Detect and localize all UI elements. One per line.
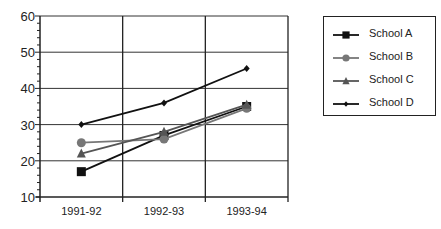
- svg-text:1991-92: 1991-92: [61, 205, 101, 217]
- series-school-b: [77, 104, 251, 147]
- legend-label: School A: [369, 27, 412, 39]
- series-school-d: [78, 65, 249, 128]
- square-marker-icon: [333, 27, 359, 39]
- series-school-c: [77, 100, 251, 158]
- legend: School A School B School C School D: [323, 16, 436, 116]
- svg-text:20: 20: [21, 154, 35, 169]
- legend-item-school-c: School C: [324, 69, 435, 89]
- svg-text:10: 10: [21, 190, 35, 205]
- y-axis-ticks: 102030405060: [21, 9, 35, 205]
- diamond-marker-icon: [333, 96, 359, 108]
- svg-text:1993-94: 1993-94: [226, 205, 266, 217]
- triangle-marker-icon: [333, 73, 359, 85]
- circle-marker-icon: [333, 50, 359, 62]
- legend-item-school-a: School A: [324, 23, 435, 43]
- legend-item-school-b: School B: [324, 46, 435, 66]
- svg-text:50: 50: [21, 45, 35, 60]
- legend-label: School D: [369, 96, 414, 108]
- legend-label: School B: [369, 50, 413, 62]
- svg-text:40: 40: [21, 81, 35, 96]
- x-axis-labels: 1991-921992-931993-94: [61, 205, 267, 217]
- legend-item-school-d: School D: [324, 92, 435, 112]
- svg-text:60: 60: [21, 9, 35, 24]
- legend-label: School C: [369, 73, 414, 85]
- data-series: [77, 65, 251, 176]
- svg-text:1992-93: 1992-93: [144, 205, 184, 217]
- svg-text:30: 30: [21, 118, 35, 133]
